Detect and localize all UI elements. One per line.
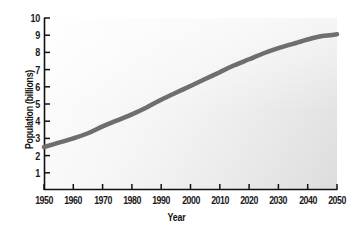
y-tick-label: 10 [12, 13, 40, 23]
x-tick-label: 2050 [328, 195, 346, 206]
x-tick-label: 1970 [94, 195, 112, 206]
x-tick-label: 2030 [270, 195, 288, 206]
x-tick-label: 1960 [64, 195, 82, 206]
x-tick-label: 1990 [152, 195, 170, 206]
x-tick-label: 2000 [182, 195, 200, 206]
y-axis-title: Population (billions) [24, 44, 35, 176]
x-axis-title: Year [21, 212, 332, 223]
x-tick-label: 1980 [123, 195, 141, 206]
y-tick-label: 9 [12, 30, 40, 40]
x-tick-label: 2040 [299, 195, 317, 206]
population-curve [44, 34, 337, 147]
x-axis-title-text: Year [168, 212, 186, 223]
x-tick-label: 2010 [211, 195, 229, 206]
x-tick-label: 1950 [35, 195, 53, 206]
x-tick-label: 2020 [240, 195, 258, 206]
x-axis-tick-labels: 1950196019701980199020002010202020302040… [0, 195, 353, 211]
population-growth-chart: 12345678910 1950196019701980199020002010… [0, 0, 353, 238]
